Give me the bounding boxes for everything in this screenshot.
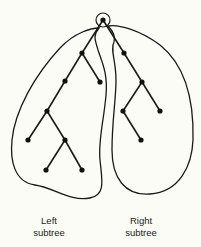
tree-node	[139, 79, 144, 84]
tree-edge	[123, 111, 141, 140]
tree-node	[97, 79, 102, 84]
tree-node	[120, 108, 125, 113]
tree-edge	[47, 111, 65, 140]
tree-node	[79, 50, 84, 55]
tree-diagram	[0, 0, 201, 247]
tree-edge	[65, 140, 82, 170]
tree-edge	[46, 140, 65, 170]
left-subtree-label: Left subtree	[19, 215, 79, 239]
tree-edge	[65, 53, 82, 81]
tree-edges	[28, 20, 160, 170]
tree-edge	[47, 81, 65, 111]
right-subtree-label-line2: subtree	[111, 227, 171, 239]
tree-edge	[123, 82, 142, 111]
tree-node	[121, 50, 126, 55]
tree-edge	[142, 82, 160, 111]
right-subtree-label-line1: Right	[111, 215, 171, 227]
tree-edge	[82, 53, 100, 82]
tree-node	[43, 167, 48, 172]
tree-edge	[28, 111, 47, 140]
tree-node	[25, 137, 30, 142]
tree-node	[138, 137, 143, 142]
tree-node	[44, 108, 49, 113]
root-node	[100, 17, 105, 22]
tree-node	[79, 167, 84, 172]
left-subtree-contour	[12, 28, 107, 199]
tree-edge	[82, 20, 103, 53]
tree-edge	[124, 53, 142, 82]
right-subtree-label: Right subtree	[111, 215, 171, 239]
left-subtree-label-line1: Left	[19, 215, 79, 227]
tree-node	[157, 108, 162, 113]
tree-nodes	[25, 17, 162, 172]
tree-node	[62, 78, 67, 83]
tree-node	[62, 137, 67, 142]
left-subtree-label-line2: subtree	[19, 227, 79, 239]
